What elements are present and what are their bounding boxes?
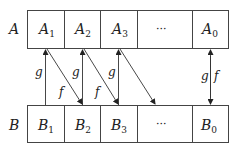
cell-a2: A2: [73, 21, 91, 39]
cell-b-ellipsis: ···: [156, 118, 167, 131]
bottom-row-frame: [28, 106, 229, 143]
cell-b3: B3: [110, 117, 127, 135]
label-f-1: f: [58, 85, 66, 99]
label-f-2: f: [94, 85, 102, 99]
cell-a-ellipsis: ···: [156, 23, 167, 36]
row-label-a: A: [7, 21, 19, 37]
label-g-0: g: [201, 69, 209, 83]
label-g-3: g: [108, 65, 116, 79]
cell-a3: A3: [110, 21, 128, 39]
cell-b2: B2: [74, 117, 91, 135]
label-g-1: g: [35, 65, 43, 79]
cell-a1: A1: [37, 21, 55, 39]
top-row-frame: [28, 11, 229, 49]
cell-a0: A0: [200, 21, 218, 39]
top-row: [28, 11, 229, 49]
cell-b1: B1: [37, 117, 54, 135]
row-label-b: B: [8, 117, 19, 133]
bottom-row: [28, 106, 229, 143]
label-g-2: g: [72, 65, 80, 79]
cell-b0: B0: [200, 117, 217, 135]
label-f-0: f: [213, 69, 221, 83]
arrow-f-a3-next: [120, 49, 155, 104]
diagram-canvas: A B A1 A2 A3 ··· A0 B1 B2 B3 ··· B0: [0, 0, 241, 151]
